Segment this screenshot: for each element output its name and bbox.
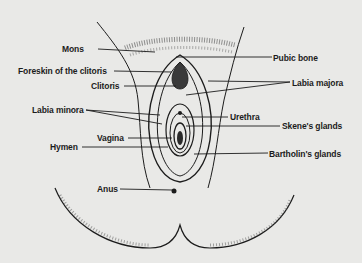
label-bartholins-glands: Bartholin's glands [269,149,341,159]
label-urethra: Urethra [230,112,260,122]
anatomy-diagram: Mons Foreskin of the clitoris Clitoris L… [0,0,362,263]
label-hymen: Hymen [50,142,78,152]
anus-dot [172,189,177,194]
urethra-dot [178,111,182,115]
left-thigh-contour [97,22,150,188]
label-anus: Anus [97,184,118,194]
label-skenes-glands: Skene's glands [282,121,342,131]
label-clitoris: Clitoris [91,81,119,91]
buttocks-contour [55,188,294,248]
label-pubic-bone: Pubic bone [273,53,318,63]
label-labia-minora: Labia minora [32,105,84,115]
label-foreskin-of-the-clitoris: Foreskin of the clitoris [18,66,107,76]
label-labia-majora: Labia majora [292,78,343,88]
label-vagina: Vagina [97,133,124,143]
label-mons: Mons [62,44,84,54]
clitoris-shape [172,62,188,89]
illustration [0,0,362,263]
